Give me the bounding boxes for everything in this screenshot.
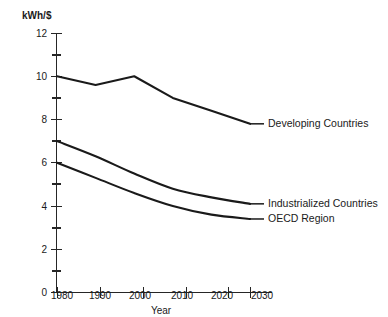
x-tick-label-2010: 2010 bbox=[171, 290, 194, 301]
y-tick-label-2: 2 bbox=[41, 244, 47, 255]
series-line-industrialized-countries bbox=[57, 141, 250, 204]
chart-container: 12 10 8 6 4 2 0 kWh/$ 1980 1990 2000 201… bbox=[0, 0, 388, 317]
y-tick-label-12: 12 bbox=[36, 28, 48, 39]
y-tick-label-8: 8 bbox=[41, 114, 47, 125]
line-chart: 12 10 8 6 4 2 0 kWh/$ 1980 1990 2000 201… bbox=[0, 0, 388, 317]
series-line-developing-countries bbox=[57, 76, 250, 124]
series-label-industrialized-countries: Industrialized Countries bbox=[268, 197, 378, 209]
x-tick-label-1980: 1980 bbox=[51, 290, 74, 301]
x-tick-label-2030: 2030 bbox=[251, 290, 274, 301]
y-tick-label-10: 10 bbox=[36, 71, 48, 82]
y-tick-label-4: 4 bbox=[41, 201, 47, 212]
x-tick-label-1990: 1990 bbox=[89, 290, 112, 301]
x-tick-label-2020: 2020 bbox=[211, 290, 234, 301]
x-axis-title: Year bbox=[151, 305, 172, 316]
x-tick-label-2000: 2000 bbox=[129, 290, 152, 301]
y-tick-label-0: 0 bbox=[41, 287, 47, 298]
series-label-oecd-region: OECD Region bbox=[268, 212, 335, 224]
series-line-oecd-region bbox=[57, 163, 250, 219]
y-axis-title: kWh/$ bbox=[22, 10, 52, 21]
y-tick-label-6: 6 bbox=[41, 157, 47, 168]
series-label-developing-countries: Developing Countries bbox=[268, 117, 368, 129]
